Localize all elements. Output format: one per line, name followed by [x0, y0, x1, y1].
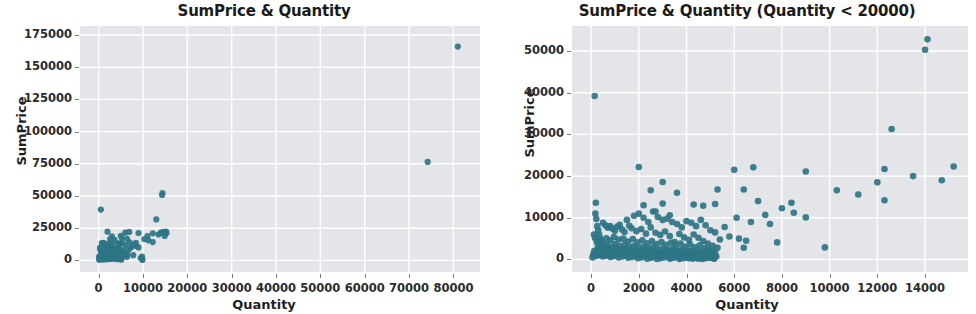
scatter-point [950, 163, 957, 170]
scatter-point [802, 168, 809, 175]
scatter-point [593, 199, 600, 206]
scatter-point [726, 233, 733, 240]
scatter-point [779, 205, 786, 212]
scatter-point [712, 229, 719, 236]
scatter-point [591, 93, 598, 100]
scatter-point [736, 235, 743, 242]
scatter-point [748, 219, 755, 226]
scatter-point [712, 201, 719, 208]
scatter-svg-right [572, 26, 968, 272]
scatter-point [802, 214, 809, 221]
scatter-point [124, 254, 130, 260]
scatter-point [733, 214, 740, 221]
scatter-point [690, 201, 697, 208]
chart-title-left: SumPrice & Quantity [0, 2, 488, 20]
scatter-point [714, 186, 721, 193]
y-tick-label: 10000 [524, 210, 564, 224]
scatter-point [750, 164, 757, 171]
scatter-point [717, 236, 724, 243]
scatter-point [700, 202, 707, 209]
scatter-point [743, 237, 750, 244]
y-tick-label: 0 [64, 252, 72, 266]
scatter-point [643, 230, 650, 237]
scatter-point [874, 179, 881, 186]
scatter-point [791, 209, 798, 216]
x-tick-label: 80000 [413, 281, 493, 295]
scatter-point [788, 199, 795, 206]
scatter-point [755, 198, 762, 205]
scatter-point [774, 239, 781, 246]
scatter-point [650, 208, 657, 215]
scatter-point [702, 222, 709, 229]
x-tick-mark [591, 274, 592, 278]
scatter-point [721, 224, 728, 231]
plot-area-right [572, 26, 968, 272]
scatter-point [621, 229, 628, 236]
scatter-point [881, 166, 888, 173]
y-tick-mark [75, 99, 79, 100]
scatter-point [693, 223, 700, 230]
x-tick-mark [99, 274, 100, 278]
scatter-panel-right: SumPrice & Quantity (Quantity < 20000) S… [488, 0, 976, 314]
y-tick-mark [567, 218, 571, 219]
scatter-point [155, 231, 161, 237]
x-tick-mark [409, 274, 410, 278]
x-tick-label: 14000 [885, 281, 965, 295]
y-tick-label: 50000 [524, 43, 564, 57]
x-axis-label-right: Quantity [488, 297, 976, 312]
scatter-point [924, 36, 931, 43]
y-tick-label: 0 [556, 251, 564, 265]
plot-area-left [80, 26, 480, 272]
x-axis-label-left: Quantity [0, 297, 488, 312]
scatter-svg-left [80, 26, 480, 272]
scatter-point [138, 255, 144, 261]
y-tick-mark [75, 260, 79, 261]
scatter-point [659, 200, 666, 207]
scatter-point [667, 233, 674, 240]
x-tick-mark [734, 274, 735, 278]
x-tick-mark [232, 274, 233, 278]
scatter-point [118, 257, 124, 263]
y-tick-mark [75, 196, 79, 197]
y-tick-mark [567, 134, 571, 135]
scatter-point [881, 197, 888, 204]
y-tick-label: 75000 [32, 156, 72, 170]
scatter-point [762, 212, 769, 219]
y-tick-label: 150000 [24, 59, 72, 73]
x-tick-mark [320, 274, 321, 278]
scatter-point [712, 252, 719, 259]
scatter-point [662, 228, 669, 235]
scatter-point [150, 239, 156, 245]
scatter-point [822, 244, 829, 251]
x-tick-mark [639, 274, 640, 278]
y-tick-mark [567, 259, 571, 260]
scatter-point [593, 216, 600, 223]
scatter-point [638, 226, 645, 233]
y-tick-mark [75, 164, 79, 165]
scatter-point [135, 244, 141, 250]
scatter-point [888, 126, 895, 133]
x-tick-mark [276, 274, 277, 278]
scatter-panel-left: SumPrice & Quantity SumPrice Quantity 02… [0, 0, 488, 314]
scatter-point [647, 187, 654, 194]
scatter-point [163, 228, 169, 234]
y-tick-label: 20000 [524, 168, 564, 182]
scatter-point [127, 245, 133, 251]
y-tick-mark [75, 132, 79, 133]
scatter-point [740, 186, 747, 193]
scatter-point [740, 245, 747, 252]
x-tick-mark [687, 274, 688, 278]
scatter-point [698, 217, 705, 224]
scatter-point [104, 229, 110, 235]
scatter-point [153, 216, 159, 222]
scatter-point [938, 177, 945, 184]
scatter-point [425, 159, 431, 165]
figure-container: SumPrice & Quantity SumPrice Quantity 02… [0, 0, 976, 314]
x-tick-mark [143, 274, 144, 278]
scatter-point [678, 224, 685, 231]
scatter-point [98, 206, 104, 212]
scatter-point [731, 167, 738, 174]
scatter-point [659, 179, 666, 186]
scatter-point [767, 221, 774, 228]
scatter-point [855, 191, 862, 198]
